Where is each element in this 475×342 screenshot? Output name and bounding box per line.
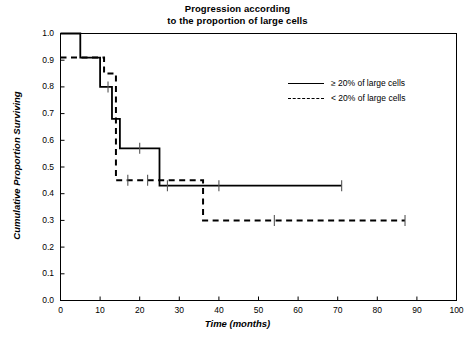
x-tick-label: 100 <box>445 305 469 315</box>
y-tick-label: 0.6 <box>24 135 54 145</box>
x-tick-label: 70 <box>326 305 350 315</box>
y-tick-label: 0.5 <box>24 162 54 172</box>
x-axis-ticks <box>61 297 457 301</box>
y-axis-ticks <box>61 34 65 301</box>
chart-legend: ≥ 20% of large cells < 20% of large cell… <box>288 76 405 106</box>
legend-swatch-solid-icon <box>288 79 324 89</box>
x-tick-label: 0 <box>49 305 73 315</box>
legend-label-ge20: ≥ 20% of large cells <box>331 76 405 91</box>
legend-swatch-dashed-icon <box>288 94 324 104</box>
x-tick-label: 30 <box>167 305 191 315</box>
x-tick-label: 80 <box>365 305 389 315</box>
x-tick-label: 60 <box>286 305 310 315</box>
series-line-solid <box>61 34 342 186</box>
y-tick-label: 1.0 <box>24 28 54 38</box>
x-tick-label: 50 <box>247 305 271 315</box>
y-tick-label: 0.2 <box>24 242 54 252</box>
y-tick-label: 0.8 <box>24 81 54 91</box>
legend-item-lt20: < 20% of large cells <box>288 91 405 106</box>
x-tick-label: 40 <box>207 305 231 315</box>
y-tick-label: 0.0 <box>24 295 54 305</box>
y-tick-label: 0.9 <box>24 55 54 65</box>
plot-axes <box>61 34 457 301</box>
legend-item-ge20: ≥ 20% of large cells <box>288 76 405 91</box>
chart-figure: Progression according to the proportion … <box>0 0 475 342</box>
series-lines <box>61 34 406 221</box>
legend-label-lt20: < 20% of large cells <box>331 91 405 106</box>
x-tick-label: 20 <box>128 305 152 315</box>
plot-canvas <box>0 0 475 342</box>
y-tick-label: 0.4 <box>24 188 54 198</box>
y-tick-label: 0.7 <box>24 108 54 118</box>
x-tick-label: 90 <box>405 305 429 315</box>
x-tick-label: 10 <box>88 305 112 315</box>
y-tick-label: 0.1 <box>24 268 54 278</box>
y-tick-label: 0.3 <box>24 215 54 225</box>
